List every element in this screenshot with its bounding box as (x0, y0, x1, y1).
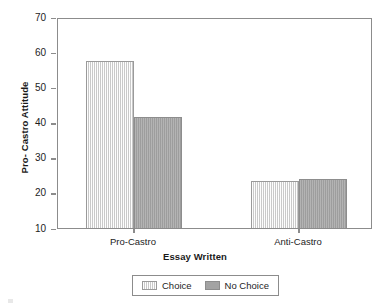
bar-anti-castro-no-choice (299, 179, 347, 228)
chart-legend: ChoiceNo Choice (132, 275, 279, 296)
legend-entry-choice: Choice (142, 280, 192, 291)
plot-area (57, 18, 372, 229)
legend-swatch (142, 281, 157, 290)
y-tick-label: 20 (0, 187, 46, 198)
y-tick-label: 10 (0, 223, 46, 234)
x-tick-mark (298, 228, 300, 233)
scan-artifact (8, 299, 13, 303)
legend-entry-no-choice: No Choice (205, 280, 269, 291)
plot-inner (58, 19, 371, 228)
y-tick-label: 40 (0, 117, 46, 128)
y-tick-mark (51, 229, 56, 231)
legend-label: No Choice (225, 280, 269, 291)
y-tick-mark (51, 193, 56, 195)
y-tick-label: 70 (0, 12, 46, 23)
x-category-label: Anti-Castro (253, 236, 343, 247)
bar-chart-figure: Pro- Castro Attitude 70605040302010 Pro-… (0, 0, 390, 305)
y-tick-mark (51, 123, 56, 125)
y-tick-mark (51, 18, 56, 20)
y-tick-mark (51, 88, 56, 90)
bar-pro-castro-no-choice (134, 117, 182, 228)
x-category-label: Pro-Castro (88, 236, 178, 247)
x-tick-mark (133, 228, 135, 233)
legend-swatch (205, 281, 220, 290)
y-tick-label: 60 (0, 47, 46, 58)
x-axis-title: Essay Written (138, 251, 252, 262)
bar-anti-castro-choice (251, 181, 299, 228)
bar-pro-castro-choice (86, 61, 134, 228)
y-tick-mark (51, 158, 56, 160)
y-tick-label: 30 (0, 152, 46, 163)
y-tick-label: 50 (0, 82, 46, 93)
y-tick-mark (51, 53, 56, 55)
legend-label: Choice (162, 280, 192, 291)
